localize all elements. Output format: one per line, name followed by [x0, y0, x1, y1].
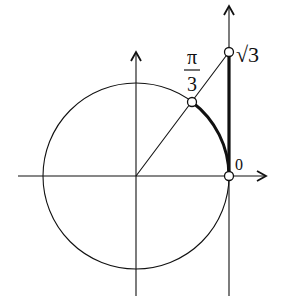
label-pi: π: [187, 46, 197, 68]
bold-arc: [192, 102, 229, 176]
label-3: 3: [187, 73, 197, 95]
point-sqrt3: [225, 48, 234, 57]
label-sqrt3: √3: [236, 42, 259, 67]
point-pi-over-3: [188, 98, 197, 107]
point-zero: [225, 172, 234, 181]
label-zero: 0: [235, 156, 243, 173]
unit-circle-tangent-diagram: π 3 √3 0: [0, 0, 288, 300]
angle-ray: [136, 52, 229, 176]
